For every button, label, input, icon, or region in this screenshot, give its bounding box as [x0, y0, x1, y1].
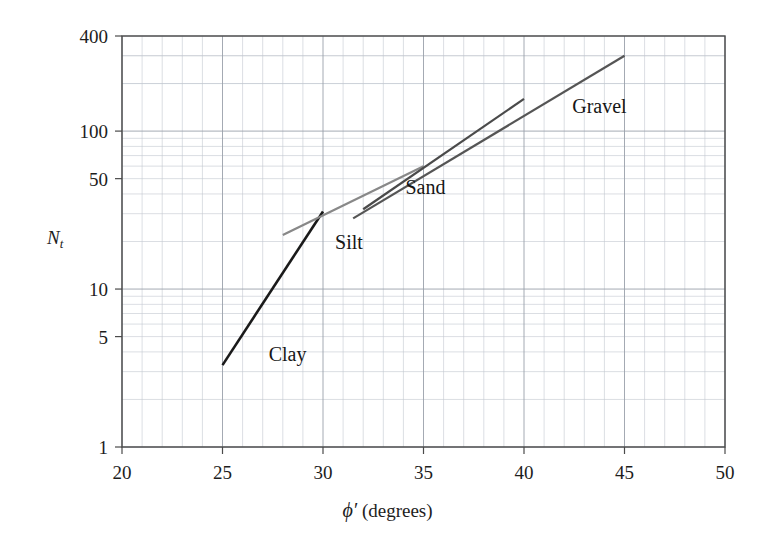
x-tick-label: 20: [113, 463, 132, 482]
x-tick-label: 35: [414, 463, 433, 482]
y-tick-label: 50: [60, 169, 108, 188]
y-tick-label: 5: [60, 327, 108, 346]
y-axis-title: Nt: [47, 228, 63, 250]
y-axis-title-subscript: t: [60, 236, 64, 251]
x-tick-label: 50: [716, 463, 735, 482]
x-tick-label: 25: [213, 463, 232, 482]
series-label-clay: Clay: [269, 344, 307, 364]
x-tick-label: 45: [615, 463, 634, 482]
x-axis-title-units: (degrees): [357, 500, 432, 521]
x-axis-title: ϕ′ (degrees): [342, 500, 432, 520]
tick-marks: [115, 36, 725, 454]
x-tick-label: 40: [515, 463, 534, 482]
y-tick-label: 10: [60, 280, 108, 299]
chart-figure: 400100501051 20253035404550 ClaySiltSand…: [0, 0, 775, 546]
y-tick-label: 100: [60, 122, 108, 141]
series-label-sand: Sand: [405, 177, 445, 197]
y-tick-label: 1: [60, 438, 108, 457]
x-tick-label: 30: [314, 463, 333, 482]
y-tick-label: 400: [60, 27, 108, 46]
phi-prime-symbol: ϕ′: [342, 499, 357, 521]
y-axis-title-base: N: [47, 227, 60, 248]
series-label-silt: Silt: [335, 232, 363, 252]
series-label-gravel: Gravel: [572, 96, 626, 116]
